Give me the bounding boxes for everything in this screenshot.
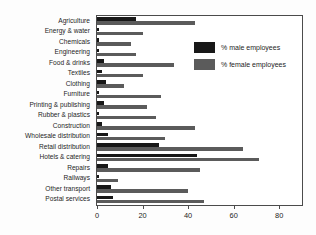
y-axis-label: Retail distribution bbox=[0, 142, 94, 153]
bar-group bbox=[97, 184, 302, 195]
bar-male bbox=[97, 28, 99, 32]
bar-group bbox=[97, 90, 302, 101]
bar-group bbox=[97, 100, 302, 111]
bar-female bbox=[97, 74, 143, 78]
bar-female bbox=[97, 42, 131, 46]
legend-label: % female employees bbox=[221, 61, 286, 68]
bar-female bbox=[97, 63, 174, 67]
y-axis-label: Rubber & plastics bbox=[0, 111, 94, 122]
bar-female bbox=[97, 168, 200, 172]
x-axis-tick-label: 40 bbox=[184, 211, 192, 220]
bar-female bbox=[97, 21, 195, 25]
bar-male bbox=[97, 101, 104, 105]
legend-label: % male employees bbox=[221, 44, 280, 51]
y-axis-label: Textiles bbox=[0, 69, 94, 80]
legend-item: % female employees bbox=[194, 59, 302, 70]
bar-group bbox=[97, 132, 302, 143]
bar-female bbox=[97, 137, 165, 141]
y-axis-label: Food & drinks bbox=[0, 58, 94, 69]
bar-female bbox=[97, 147, 243, 151]
x-axis-tick-label: 0 bbox=[95, 211, 99, 220]
y-axis-label: Engineering bbox=[0, 48, 94, 59]
y-axis-label: Printing & publishing bbox=[0, 100, 94, 111]
bar-male bbox=[97, 143, 159, 147]
bar-group bbox=[97, 142, 302, 153]
legend-swatch bbox=[194, 42, 215, 53]
bar-female bbox=[97, 179, 118, 183]
bar-male bbox=[97, 80, 106, 84]
x-axis: 020406080 bbox=[97, 206, 302, 228]
x-axis-tick bbox=[188, 206, 189, 209]
bar-group bbox=[97, 79, 302, 90]
y-axis-label: Clothing bbox=[0, 79, 94, 90]
bar-male bbox=[97, 91, 99, 95]
bar-female bbox=[97, 95, 161, 99]
y-axis-label: Chemicals bbox=[0, 37, 94, 48]
x-axis-tick bbox=[234, 206, 235, 209]
bar-male bbox=[97, 164, 108, 168]
legend-swatch bbox=[194, 59, 215, 70]
bar-female bbox=[97, 32, 143, 36]
bar-male bbox=[97, 38, 99, 42]
bar-female bbox=[97, 200, 204, 204]
y-axis-label: Other transport bbox=[0, 184, 94, 195]
bar-group bbox=[97, 111, 302, 122]
bar-male bbox=[97, 70, 102, 74]
bar-female bbox=[97, 189, 188, 193]
y-axis-label: Railways bbox=[0, 174, 94, 185]
y-axis-label: Wholesale distribution bbox=[0, 132, 94, 143]
y-axis-label: Postal services bbox=[0, 195, 94, 206]
legend-item: % male employees bbox=[194, 42, 302, 53]
bar-group bbox=[97, 174, 302, 185]
y-axis-label: Construction bbox=[0, 121, 94, 132]
x-axis-tick-label: 20 bbox=[138, 211, 146, 220]
bar-male bbox=[97, 133, 108, 137]
bar-male bbox=[97, 196, 113, 200]
bar-group bbox=[97, 16, 302, 27]
y-axis-category-labels: AgricultureEnergy & waterChemicalsEngine… bbox=[0, 16, 94, 205]
bar-female bbox=[97, 84, 124, 88]
bar-male bbox=[97, 175, 99, 179]
bar-group bbox=[97, 195, 302, 206]
bar-male bbox=[97, 59, 104, 63]
x-axis-tick-label: 60 bbox=[230, 211, 238, 220]
x-axis-tick bbox=[97, 206, 98, 209]
bar-group bbox=[97, 121, 302, 132]
y-axis-label: Energy & water bbox=[0, 27, 94, 38]
bar-chart: AgricultureEnergy & waterChemicalsEngine… bbox=[0, 0, 316, 235]
bar-male bbox=[97, 112, 99, 116]
bar-male bbox=[97, 185, 111, 189]
x-axis-tick bbox=[279, 206, 280, 209]
bar-male bbox=[97, 17, 136, 21]
bar-male bbox=[97, 122, 102, 126]
y-axis-label: Agriculture bbox=[0, 16, 94, 27]
y-axis-label: Hotels & catering bbox=[0, 153, 94, 164]
x-axis-tick-label: 80 bbox=[275, 211, 283, 220]
bar-female bbox=[97, 53, 136, 57]
x-axis-tick bbox=[143, 206, 144, 209]
bar-male bbox=[97, 154, 197, 158]
y-axis-label: Furniture bbox=[0, 90, 94, 101]
bar-group bbox=[97, 27, 302, 38]
y-axis-label: Repairs bbox=[0, 163, 94, 174]
bar-group bbox=[97, 163, 302, 174]
chart-legend: % male employees% female employees bbox=[194, 42, 302, 76]
bar-female bbox=[97, 105, 147, 109]
bar-female bbox=[97, 158, 259, 162]
bar-group bbox=[97, 153, 302, 164]
bar-male bbox=[97, 49, 99, 53]
bar-female bbox=[97, 116, 156, 120]
bar-female bbox=[97, 126, 195, 130]
